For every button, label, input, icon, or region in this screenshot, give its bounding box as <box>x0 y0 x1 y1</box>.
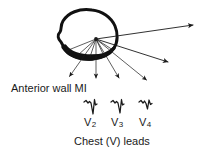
ecg-waveform-v3 <box>111 100 124 114</box>
lead-label-v2: V2 <box>84 117 96 129</box>
lead-label-v4: V4 <box>139 117 151 129</box>
diagram-canvas <box>0 0 202 157</box>
ecg-waveforms-group <box>84 100 152 115</box>
heart-outline-group <box>58 10 117 60</box>
label-anterior-wall-mi: Anterior wall MI <box>11 83 87 94</box>
lead-label-v3-subscript: 3 <box>118 120 123 129</box>
vector-lead-v5 <box>96 39 147 80</box>
lead-label-v2-subscript: 2 <box>91 120 96 129</box>
ecg-waveform-v4 <box>139 100 152 109</box>
label-chest-v-leads: Chest (V) leads <box>74 136 150 147</box>
ecg-waveform-v2 <box>84 100 97 115</box>
anterior-wall-mi-diagram: Anterior wall MI V2 V3 V4 Chest (V) lead… <box>0 0 202 157</box>
lead-label-v4-subscript: 4 <box>146 120 151 129</box>
lead-label-v3: V3 <box>111 117 123 129</box>
vector-origin-point <box>94 37 98 41</box>
